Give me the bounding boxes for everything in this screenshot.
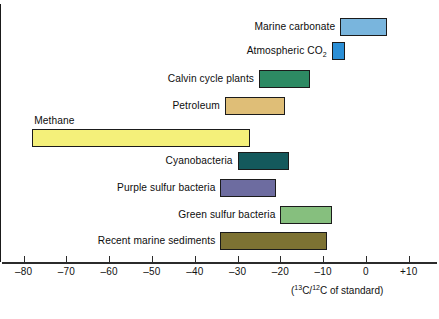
bar-label-petroleum: Petroleum [172,97,219,115]
caption-mid-text: C/ [302,285,312,296]
bar-methane [32,129,250,147]
bar-row-petroleum: Petroleum [0,97,439,115]
bar-label-text: Atmospheric CO [247,45,323,56]
bar-label-green-sulfur-bacteria: Green sulfur bacteria [178,206,275,224]
x-tick--80 [24,256,25,263]
bar-label-text: Cyanobacteria [166,155,233,166]
bar-label-subscript: 2 [323,51,327,58]
x-tick-10 [409,256,410,263]
bar-label-calvin-cycle-plants: Calvin cycle plants [168,70,254,88]
x-tick-label--60: –60 [101,266,118,277]
isotope-range-chart: Marine carbonateAtmospheric CO2Calvin cy… [0,0,439,319]
x-tick--20 [280,256,281,263]
x-tick--50 [152,256,153,263]
bar-label-atmospheric-co2: Atmospheric CO2 [247,42,327,64]
x-tick--60 [109,256,110,263]
bar-label-text: Petroleum [172,100,219,111]
x-tick--10 [323,256,324,263]
x-tick-label--20: –20 [272,266,289,277]
caption-superscript-12: 12 [312,284,320,291]
x-tick-label--10: –10 [315,266,332,277]
x-tick-label--70: –70 [58,266,75,277]
bar-row-methane: Methane [0,129,439,147]
bar-label-marine-carbonate: Marine carbonate [254,18,335,36]
x-axis-caption: (13C/12C of standard) [291,285,383,296]
bar-label-text: Calvin cycle plants [168,73,254,84]
x-tick-label--30: –30 [229,266,246,277]
bar-label-methane: Methane [34,114,74,128]
x-tick-label--80: –80 [15,266,32,277]
bar-label-text: Recent marine sediments [98,235,216,246]
bar-calvin-cycle-plants [259,70,310,88]
caption-superscript-13: 13 [294,284,302,291]
bar-row-marine-carbonate: Marine carbonate [0,18,439,36]
bar-label-text: Green sulfur bacteria [178,209,275,220]
x-tick-label--50: –50 [143,266,160,277]
x-tick-label-0: 0 [363,266,369,277]
bar-recent-marine-sediments [220,232,327,250]
bar-row-atmospheric-co2: Atmospheric CO2 [0,42,439,60]
x-tick-label--40: –40 [186,266,203,277]
bar-row-calvin-cycle-plants: Calvin cycle plants [0,70,439,88]
bar-marine-carbonate [340,18,387,36]
bar-label-text: Marine carbonate [254,21,335,32]
bar-label-cyanobacteria: Cyanobacteria [166,152,233,170]
bar-row-purple-sulfur-bacteria: Purple sulfur bacteria [0,179,439,197]
bar-label-purple-sulfur-bacteria: Purple sulfur bacteria [117,179,215,197]
bar-purple-sulfur-bacteria [220,179,276,197]
x-tick-label-10: +10 [400,266,418,277]
bar-row-green-sulfur-bacteria: Green sulfur bacteria [0,206,439,224]
x-tick-0 [366,256,367,263]
bar-cyanobacteria [238,152,289,170]
x-tick--40 [195,256,196,263]
x-tick--30 [238,256,239,263]
bar-petroleum [225,97,285,115]
bar-label-text: Methane [34,115,74,126]
bar-label-recent-marine-sediments: Recent marine sediments [98,232,216,250]
bar-row-cyanobacteria: Cyanobacteria [0,152,439,170]
bar-label-text: Purple sulfur bacteria [117,182,215,193]
x-tick--70 [66,256,67,263]
bar-atmospheric-co2 [332,42,345,60]
plot-area: Marine carbonateAtmospheric CO2Calvin cy… [0,0,439,262]
bar-row-recent-marine-sediments: Recent marine sediments [0,232,439,250]
bar-green-sulfur-bacteria [280,206,331,224]
caption-end-text: C of standard) [320,285,383,296]
